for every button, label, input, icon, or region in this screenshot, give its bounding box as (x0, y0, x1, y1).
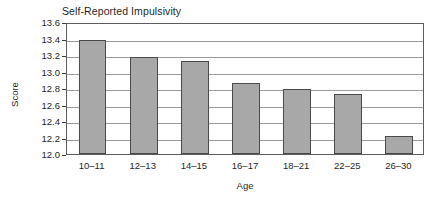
y-tick-label-wrap: 12.2 (22, 133, 60, 145)
y-tick-label: 12.8 (26, 83, 60, 94)
y-tick-label: 12.6 (26, 100, 60, 111)
y-tick-label: 12.2 (26, 133, 60, 144)
y-tick-label-wrap: 12.8 (22, 83, 60, 95)
bar (232, 83, 260, 154)
y-tick-label-wrap: 12.4 (22, 116, 60, 128)
bar (181, 61, 209, 154)
bar (130, 57, 158, 154)
bar (334, 94, 362, 154)
y-tick-label: 12.4 (26, 116, 60, 127)
y-tick-label: 13.6 (26, 17, 60, 28)
bar (283, 89, 311, 154)
y-tick-label-wrap: 13.0 (22, 67, 60, 79)
y-tick-label: 12.0 (26, 149, 60, 160)
bar (79, 40, 107, 154)
y-tick-label: 13.0 (26, 67, 60, 78)
x-axis-title: Age (66, 180, 424, 191)
x-axis: 10–1112–1314–1516–1718–2122–2526–30 (0, 160, 441, 176)
y-tick-label-wrap: 13.2 (22, 50, 60, 62)
y-tick-label-wrap: 13.6 (22, 17, 60, 29)
chart-title: Self-Reported Impulsivity (62, 5, 181, 17)
x-tick-label: 14–15 (168, 160, 219, 171)
y-tick-mark (62, 155, 66, 156)
chart-figure: Self-Reported Impulsivity Score 12.012.2… (0, 0, 441, 201)
y-tick-label-wrap: 12.6 (22, 100, 60, 112)
x-tick-label: 16–17 (219, 160, 270, 171)
x-tick-label: 10–11 (66, 160, 117, 171)
y-axis-title: Score (9, 65, 20, 125)
x-tick-label: 26–30 (373, 160, 424, 171)
bar-series (67, 24, 423, 154)
y-tick-label: 13.2 (26, 50, 60, 61)
bar (385, 136, 413, 154)
x-tick-label: 22–25 (322, 160, 373, 171)
x-tick-label: 18–21 (271, 160, 322, 171)
plot-area (66, 23, 424, 155)
y-tick-label-wrap: 13.4 (22, 34, 60, 46)
x-tick-label: 12–13 (117, 160, 168, 171)
y-tick-label: 13.4 (26, 34, 60, 45)
